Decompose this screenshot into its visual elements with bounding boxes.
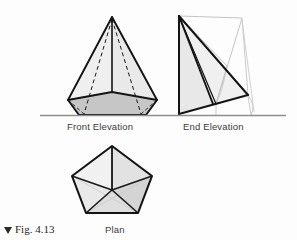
caption-text: Fig. 4.13 <box>15 223 54 235</box>
figure-caption: Fig. 4.13 <box>4 223 54 235</box>
label-front-elevation: Front Elevation <box>67 121 133 132</box>
plan-drawing <box>72 146 152 213</box>
technical-drawing-figure <box>0 0 297 240</box>
caption-triangle-icon <box>4 227 12 234</box>
label-end-elevation: End Elevation <box>183 121 244 132</box>
end-elevation-drawing <box>179 16 254 115</box>
figure-page: Front Elevation End Elevation Plan Fig. … <box>0 0 297 240</box>
label-plan: Plan <box>105 224 125 235</box>
front-elevation-drawing <box>68 17 157 115</box>
construction-top-edge <box>179 16 242 18</box>
